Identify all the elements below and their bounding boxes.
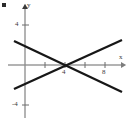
- coordinate-plot: [0, 0, 129, 123]
- descending-line: [14, 41, 122, 92]
- y-tick-label-4: 4: [15, 21, 19, 28]
- graph-figure: y x 4 8 4 -4: [0, 0, 129, 123]
- y-axis-label: y: [27, 2, 31, 9]
- y-tick-label-neg4: -4: [12, 101, 18, 108]
- x-axis-label: x: [119, 54, 123, 61]
- x-tick-label-4: 4: [62, 69, 66, 76]
- x-tick-label-8: 8: [102, 69, 106, 76]
